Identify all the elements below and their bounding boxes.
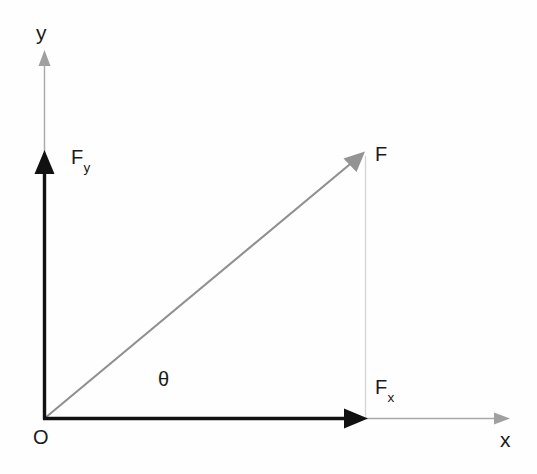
- fx-label-main: F: [375, 376, 387, 398]
- fy-label-subscript: y: [83, 160, 90, 175]
- force-vector-f-arrow-icon: [344, 152, 366, 173]
- x-axis-arrow-icon: [494, 413, 510, 425]
- force-component-fy-label: Fy: [71, 147, 90, 172]
- vector-diagram-canvas: [0, 0, 537, 474]
- force-component-fx: [43, 409, 368, 429]
- force-component-fy-arrow-icon: [35, 150, 55, 174]
- force-vector-f-line: [45, 160, 355, 418]
- fy-label-main: F: [71, 146, 83, 168]
- y-axis-label: y: [36, 22, 47, 43]
- x-axis-label: x: [500, 429, 511, 450]
- force-vector-diagram: y x O Fy Fx F θ: [0, 0, 537, 474]
- axis-group: [39, 50, 511, 425]
- force-component-fx-arrow-icon: [344, 409, 368, 429]
- origin-label: O: [33, 427, 49, 447]
- force-component-fx-label: Fx: [375, 377, 394, 402]
- force-vector-f: [45, 152, 365, 419]
- force-vector-f-label: F: [375, 144, 387, 164]
- force-component-fy: [35, 150, 55, 420]
- y-axis-arrow-icon: [39, 50, 51, 66]
- fx-label-subscript: x: [387, 390, 394, 405]
- angle-theta-label: θ: [158, 369, 169, 389]
